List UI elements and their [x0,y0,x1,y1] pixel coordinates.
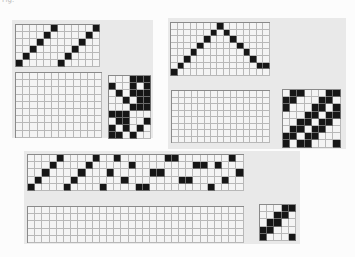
grid-cell [30,39,37,46]
grid-cell [186,155,193,162]
grid-cell [191,30,198,37]
grid-cell [95,80,102,87]
grid-cell [35,184,42,191]
grid-cell [79,53,86,60]
grid-cell [66,87,73,94]
grid-cell [137,132,144,139]
grid-cell [289,219,296,226]
grid-cell [30,123,37,130]
grid-cell [186,184,193,191]
grid-cell [274,212,281,219]
grid-cell [283,112,290,119]
grid-cell [319,104,326,111]
grid-cell [93,177,100,184]
grid-cell [257,36,264,43]
grid-cell [50,214,57,221]
grid-cell [312,104,319,111]
grid-cell [16,46,23,53]
grid-cell [116,97,123,104]
grid-cell [165,177,172,184]
grid-cell [204,23,211,30]
grid-cell [184,49,191,56]
grid-cell [38,123,45,130]
grid-cell [263,30,270,37]
grid-cell [172,155,179,162]
grid-cell [236,162,243,169]
grid-cell [305,126,312,133]
grid-cell [86,177,93,184]
grid-cell [222,155,229,162]
grid-cell [191,43,198,50]
grid-cell [260,234,267,241]
grid-cell [81,123,88,130]
grid-cell [217,63,224,70]
grid-cell [130,76,137,83]
grid-cell [244,49,251,56]
grid-cell [229,229,236,236]
grid-cell [184,56,191,63]
grid-cell [121,184,128,191]
grid-cell [150,177,157,184]
grid-cell [171,69,178,76]
grid-cell [171,56,178,63]
grid-cell [184,30,191,37]
grid-cell [290,112,297,119]
grid-cell [215,236,222,243]
grid-cell [237,56,244,63]
grid-cell [312,112,319,119]
grid-cell [283,97,290,104]
grid-cell [23,32,30,39]
grid-cell [23,80,30,87]
grid-cell [74,102,81,109]
grid-cell [179,177,186,184]
grid-cell [130,111,137,118]
grid-cell [222,207,229,214]
grid-cell [50,169,57,176]
grid-cell [297,104,304,111]
grid-cell [178,30,185,37]
grid-cell [211,30,218,37]
grid-cell [64,214,71,221]
grid-cell [58,53,65,60]
grid-cell [100,184,107,191]
grid-cell [257,69,264,76]
grid-cell [257,63,264,70]
grid-cell [305,112,312,119]
grid-cell [237,23,244,30]
grid-cell [93,229,100,236]
grid-cell [165,162,172,169]
grid-cell [274,234,281,241]
grid-cell [178,49,185,56]
grid-cell [257,30,264,37]
grid-cell [64,221,71,228]
grid-cell [333,133,340,140]
grid-cell [78,155,85,162]
grid-cell [165,214,172,221]
grid-cell [150,221,157,228]
grid-cell [201,207,208,214]
grid-cell [30,73,37,80]
grid-cell [74,116,81,123]
grid-cell [237,43,244,50]
grid-cell [109,90,116,97]
grid-cell [244,63,251,70]
grid-cell [263,23,270,30]
grid-cell [121,214,128,221]
grid-cell [191,23,198,30]
grid-cell [71,184,78,191]
grid-cell [93,39,100,46]
grid-cell [144,132,151,139]
grid-cell [107,177,114,184]
grid-cell [178,63,185,70]
grid-cell [71,162,78,169]
grid-cell [250,63,257,70]
grid-cell [179,169,186,176]
grid-cell [215,214,222,221]
grid-cell [179,236,186,243]
grid-cell [57,229,64,236]
grid-cell [109,111,116,118]
grid-cell [178,69,185,76]
grid-cell [86,39,93,46]
grid-cell [93,214,100,221]
grid-cell [319,112,326,119]
